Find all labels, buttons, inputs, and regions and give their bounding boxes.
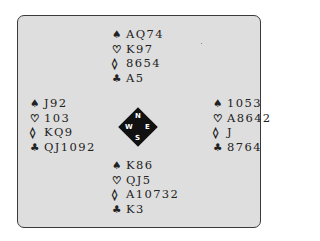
west-spades: J92 [44, 96, 67, 111]
north-diamonds: 8654 [126, 56, 161, 71]
north-hearts-row: ♡K97 [112, 42, 164, 57]
south-hand: ♠K86 ♡QJ5 ◊A10732 ♣K3 [112, 158, 179, 216]
compass-north-label: N [135, 112, 141, 120]
compass-east-label: E [145, 123, 150, 131]
heart-icon: ♡ [30, 111, 44, 126]
east-spades-row: ♠1053 [213, 96, 272, 111]
north-diamonds-row: ◊8654 [112, 56, 164, 71]
spade-icon: ♠ [213, 96, 227, 111]
club-icon: ♣ [30, 140, 44, 155]
heart-icon: ♡ [112, 42, 126, 57]
club-icon: ♣ [213, 140, 227, 155]
west-diamonds-row: ◊KQ9 [30, 125, 96, 140]
scan-speck [201, 43, 202, 44]
west-clubs-row: ♣QJ1092 [30, 140, 96, 155]
north-clubs: A5 [126, 71, 144, 86]
club-icon: ♣ [112, 71, 126, 86]
club-icon: ♣ [112, 202, 126, 217]
east-spades: 1053 [227, 96, 262, 111]
north-hand: ♠AQ74 ♡K97 ◊8654 ♣A5 [112, 27, 164, 85]
east-hand: ♠1053 ♡A8642 ◊J ♣8764 [213, 96, 272, 154]
heart-icon: ♡ [112, 173, 126, 188]
heart-icon: ♡ [213, 111, 227, 126]
compass-south-label: S [135, 134, 140, 142]
diamond-icon: ◊ [30, 125, 44, 140]
north-hearts: K97 [126, 42, 153, 57]
east-clubs-row: ♣8764 [213, 140, 272, 155]
spade-icon: ♠ [30, 96, 44, 111]
south-hearts: QJ5 [126, 173, 152, 188]
spade-icon: ♠ [112, 27, 126, 42]
west-diamonds: KQ9 [44, 125, 74, 140]
west-hand: ♠J92 ♡103 ◊KQ9 ♣QJ1092 [30, 96, 96, 154]
south-clubs-row: ♣K3 [112, 202, 179, 217]
south-diamonds: A10732 [126, 187, 179, 202]
compass-rose: N W E S [118, 107, 158, 147]
east-diamonds-row: ◊J [213, 125, 272, 140]
west-spades-row: ♠J92 [30, 96, 96, 111]
south-hearts-row: ♡QJ5 [112, 173, 179, 188]
east-diamonds: J [227, 125, 233, 140]
east-clubs: 8764 [227, 140, 262, 155]
south-spades-row: ♠K86 [112, 158, 179, 173]
west-hearts: 103 [44, 111, 70, 126]
south-spades: K86 [126, 158, 153, 173]
east-hearts: A8642 [227, 111, 272, 126]
east-hearts-row: ♡A8642 [213, 111, 272, 126]
west-clubs: QJ1092 [44, 140, 96, 155]
diamond-icon: ◊ [213, 125, 227, 140]
diamond-icon: ◊ [112, 56, 126, 71]
diamond-icon: ◊ [112, 187, 126, 202]
north-spades-row: ♠AQ74 [112, 27, 164, 42]
north-spades: AQ74 [126, 27, 164, 42]
compass-west-label: W [125, 123, 133, 131]
south-clubs: K3 [126, 202, 145, 217]
west-hearts-row: ♡103 [30, 111, 96, 126]
south-diamonds-row: ◊A10732 [112, 187, 179, 202]
spade-icon: ♠ [112, 158, 126, 173]
north-clubs-row: ♣A5 [112, 71, 164, 86]
